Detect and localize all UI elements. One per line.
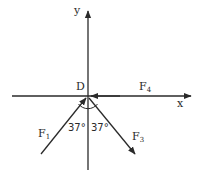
force-f4-name: F bbox=[139, 80, 147, 93]
force-diagram: y x D F4 F1 F3 37° 37° bbox=[0, 0, 203, 172]
x-axis-label: x bbox=[177, 98, 183, 109]
y-axis-label: y bbox=[74, 5, 80, 16]
origin-label: D bbox=[76, 81, 85, 92]
force-f3-label: F3 bbox=[132, 131, 144, 144]
force-f3-sub: 3 bbox=[140, 136, 144, 144]
diagram-graphics bbox=[0, 0, 203, 172]
force-f4-label: F4 bbox=[139, 81, 151, 94]
force-f3-name: F bbox=[132, 130, 140, 143]
force-f1-sub: 1 bbox=[46, 133, 50, 141]
force-f1-label: F1 bbox=[38, 128, 50, 141]
force-f4-sub: 4 bbox=[147, 86, 151, 94]
force-f1-name: F bbox=[38, 127, 46, 140]
angle-label-right: 37° bbox=[91, 123, 109, 133]
angle-label-left: 37° bbox=[68, 123, 86, 133]
